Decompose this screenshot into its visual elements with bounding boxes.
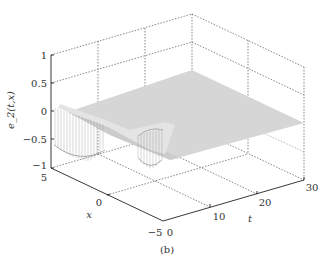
z-tick-label: −1 xyxy=(32,160,47,171)
z-tick-label: 1 xyxy=(41,50,47,61)
x-axis-label: x xyxy=(86,209,92,220)
x-tick-label: 5 xyxy=(41,172,47,183)
surface-plot: 1 0.5 0 −0.5 −1 5 0 −5 0 10 20 30 e_2(t,… xyxy=(0,0,327,263)
x-tick-label: 0 xyxy=(96,197,102,208)
figure-caption: (b) xyxy=(160,244,174,255)
surface xyxy=(54,70,304,168)
t-tick-label: 20 xyxy=(259,197,272,208)
z-tick-label: 0 xyxy=(41,106,47,117)
z-axis-label: e_2(t,x) xyxy=(5,91,17,129)
z-tick-label: −0.5 xyxy=(23,134,47,145)
t-tick-label: 10 xyxy=(213,211,226,222)
t-axis-line xyxy=(163,180,304,221)
t-tick-label: 30 xyxy=(306,182,319,193)
t-axis-label: t xyxy=(248,213,253,224)
x-axis-line xyxy=(51,168,163,221)
z-tick-label: 0.5 xyxy=(31,78,47,89)
t-tick-label: 0 xyxy=(167,227,173,238)
x-tick-label: −5 xyxy=(148,227,163,238)
